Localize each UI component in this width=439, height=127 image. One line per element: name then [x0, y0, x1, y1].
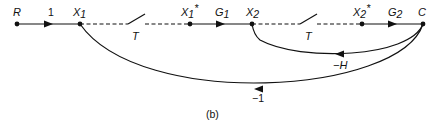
- label-x1: X1: [72, 6, 86, 20]
- label-x2: X2: [245, 6, 259, 20]
- sampler-switch-1: [80, 14, 190, 24]
- branch-x1s-x2: [190, 21, 252, 28]
- label-minus-h: −H: [333, 59, 347, 71]
- label-c: C: [418, 6, 426, 18]
- node-x2-star: [360, 22, 365, 27]
- label-t1: T: [132, 30, 140, 42]
- label-r: R: [13, 6, 21, 18]
- sampler-switch-2: [252, 14, 362, 24]
- signal-flow-graph: R 1 X1 T X1* G1 X2 T X2* G2 C −H −1 (b): [0, 0, 439, 127]
- node-x1: [78, 22, 83, 27]
- label-x1-star: X1*: [180, 2, 199, 20]
- label-t2: T: [305, 30, 313, 42]
- figure-caption: (b): [206, 108, 219, 120]
- label-x2-star: X2*: [352, 2, 371, 20]
- label-g1: G1: [215, 6, 229, 20]
- node-c: [421, 22, 426, 27]
- label-minus-1: −1: [252, 92, 264, 104]
- node-r: [15, 22, 20, 27]
- branch-x2s-c: [362, 21, 423, 28]
- node-x2: [250, 22, 255, 27]
- branch-r-x1: [17, 21, 80, 28]
- arrow-icon: [44, 21, 53, 28]
- label-g2: G2: [388, 6, 403, 20]
- node-x1-star: [188, 22, 193, 27]
- label-gain-1: 1: [48, 6, 54, 18]
